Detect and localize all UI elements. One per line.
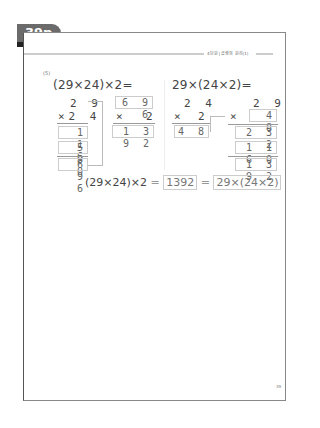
left-step2-sign: × xyxy=(116,110,127,123)
header-rule-left xyxy=(24,53,204,55)
left-step2-rule xyxy=(113,123,155,124)
summary-eq1: = xyxy=(151,176,160,189)
summary-right: 29×(24×2) xyxy=(213,175,281,190)
left-step1-partial2: 5 8 0 xyxy=(58,141,88,154)
summary-equation: (29×24)×2 = 1392 = 29×(24×2) xyxy=(85,175,281,190)
left-step2-multiplier: 2 xyxy=(146,110,157,123)
summary-answer: 1392 xyxy=(163,175,197,190)
page-number: 39 xyxy=(276,384,281,389)
right-step2-partial1: 2 3 2 xyxy=(235,126,277,139)
right-step2-result: 1 3 9 2 xyxy=(235,158,277,171)
summary-eq2: = xyxy=(201,176,210,189)
right-step2-rule2 xyxy=(228,156,278,157)
left-step2-top: 6 9 6 xyxy=(115,96,153,109)
right-expression: 29×(24×2)= xyxy=(172,78,252,92)
left-step2-result: 1 3 9 2 xyxy=(112,125,154,138)
right-step2-rule xyxy=(228,124,278,125)
left-expression: (29×24)×2= xyxy=(53,78,133,92)
header-rule-right xyxy=(256,53,273,55)
left-step1-result: 6 9 6 xyxy=(58,158,88,171)
left-step1-rule2 xyxy=(57,156,88,157)
right-step2-sign: × xyxy=(230,110,241,123)
left-step1-partial1: 1 1 6 xyxy=(58,126,88,139)
right-step2-multiplier: 4 8 xyxy=(249,109,277,122)
right-step2-partial2: 1 1 6 0 xyxy=(235,141,277,154)
left-connector xyxy=(88,101,103,166)
column-divider xyxy=(164,80,165,170)
right-step1-result: 4 8 xyxy=(174,125,209,138)
right-connector xyxy=(210,116,225,132)
right-step1-multiplier: 2 xyxy=(198,110,209,123)
right-step1-rule xyxy=(172,123,210,124)
problem-number: (5) xyxy=(43,70,50,76)
right-step1-sign: × xyxy=(174,110,185,123)
left-step1-rule xyxy=(57,123,88,124)
summary-left: (29×24)×2 xyxy=(85,176,147,189)
right-step1-top: 2 4 xyxy=(184,97,216,110)
section-label: 4단원 | 곱셈의 원리(1) xyxy=(207,50,248,56)
